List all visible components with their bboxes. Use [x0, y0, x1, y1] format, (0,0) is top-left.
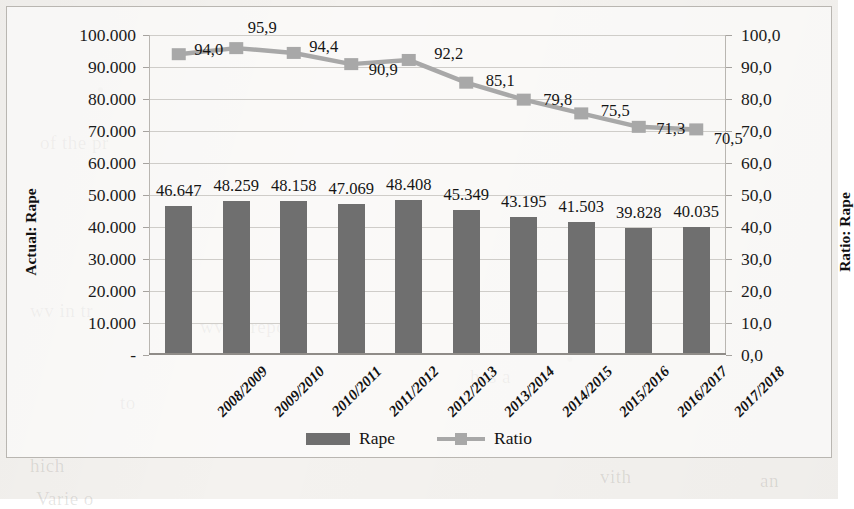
tick-mark: [143, 131, 149, 132]
left-axis-tick-label: 100.000: [79, 25, 136, 46]
ratio-data-label: 75,5: [601, 101, 630, 121]
bar: [165, 206, 192, 355]
left-axis-tick-label: 90.000: [88, 57, 136, 78]
left-axis-tick-label: 80.000: [88, 89, 136, 110]
bar-data-label: 39.828: [616, 203, 661, 223]
tick-mark: [143, 355, 149, 356]
tick-mark: [143, 195, 149, 196]
ratio-data-label: 92,2: [434, 44, 463, 64]
chart-legend: Rape Ratio: [7, 428, 831, 449]
tick-mark: [726, 163, 732, 164]
tick-mark: [726, 67, 732, 68]
right-axis-tick-label: 100,0: [741, 25, 780, 46]
gridline: [150, 35, 725, 36]
line-marker: [402, 54, 416, 66]
ratio-data-label: 79,8: [543, 90, 572, 110]
left-axis-title: Actual: Rape: [22, 188, 40, 275]
category-label: 2017/2018: [731, 363, 788, 420]
bar: [510, 217, 537, 355]
right-axis-tick-label: 50,0: [741, 185, 772, 206]
bar-data-label: 40.035: [674, 202, 719, 222]
ratio-data-label: 94,4: [309, 37, 338, 57]
ratio-data-label: 94,0: [194, 40, 223, 60]
category-label: 2009/2010: [271, 363, 328, 420]
gridline: [150, 163, 725, 164]
category-axis-line: [149, 353, 726, 355]
line-marker: [689, 123, 703, 135]
bar: [568, 222, 595, 355]
right-axis-tick-label: 0,0: [741, 345, 763, 366]
right-axis-title: Ratio: Rape: [836, 192, 854, 272]
line-marker: [574, 107, 588, 119]
tick-mark: [726, 259, 732, 260]
bar: [453, 210, 480, 355]
bar-data-label: 47.069: [329, 179, 374, 199]
tick-mark: [143, 99, 149, 100]
category-label: 2016/2017: [674, 363, 731, 420]
bar: [338, 204, 365, 355]
legend-item-ratio: Ratio: [437, 428, 532, 449]
line-marker: [287, 47, 301, 59]
right-axis-tick-label: 80,0: [741, 89, 772, 110]
right-axis-tick-label: 40,0: [741, 217, 772, 238]
tick-mark: [726, 355, 732, 356]
tick-mark: [143, 67, 149, 68]
left-axis-tick-label: 50.000: [88, 185, 136, 206]
chart-container: Actual: Rape Ratio: Rape -10.00020.00030…: [6, 6, 832, 458]
category-label: 2011/2012: [386, 363, 443, 420]
tick-mark: [143, 227, 149, 228]
tick-mark: [143, 323, 149, 324]
legend-line-swatch-icon: [437, 433, 485, 445]
category-label: 2014/2015: [559, 363, 616, 420]
right-axis-tick-label: 10,0: [741, 313, 772, 334]
category-label: 2008/2009: [214, 363, 271, 420]
tick-mark: [143, 163, 149, 164]
bar: [625, 228, 652, 355]
bar-data-label: 48.158: [271, 176, 316, 196]
legend-bar-swatch-icon: [306, 433, 350, 445]
tick-mark: [726, 291, 732, 292]
gridline: [150, 131, 725, 132]
bar: [683, 227, 710, 355]
tick-mark: [726, 227, 732, 228]
ghost-text: vith: [600, 466, 632, 488]
right-axis-tick-label: 30,0: [741, 249, 772, 270]
right-axis-tick-label: 60,0: [741, 153, 772, 174]
bar: [223, 201, 250, 355]
category-label: 2015/2016: [616, 363, 673, 420]
tick-mark: [143, 291, 149, 292]
ratio-data-label: 90,9: [369, 60, 398, 80]
right-axis-tick-label: 70,0: [741, 121, 772, 142]
legend-item-rape: Rape: [306, 428, 395, 449]
gridline: [150, 99, 725, 100]
tick-mark: [726, 195, 732, 196]
left-axis-tick-label: 10.000: [88, 313, 136, 334]
ratio-data-label: 95,9: [248, 18, 277, 38]
tick-mark: [726, 99, 732, 100]
bar-data-label: 48.259: [214, 176, 259, 196]
ratio-data-label: 85,1: [486, 71, 515, 91]
category-label: 2010/2011: [328, 363, 385, 420]
left-axis-tick-label: 30.000: [88, 249, 136, 270]
legend-label-ratio: Ratio: [494, 428, 532, 449]
ghost-text: hich: [30, 455, 65, 477]
tick-mark: [143, 35, 149, 36]
tick-mark: [726, 323, 732, 324]
ratio-data-label: 71,3: [656, 119, 685, 139]
bar: [395, 200, 422, 355]
left-axis-tick-label: 20.000: [88, 281, 136, 302]
ghost-text: Varie o: [36, 488, 94, 509]
bar-data-label: 48.408: [386, 175, 431, 195]
right-axis-tick-label: 90,0: [741, 57, 772, 78]
tick-mark: [726, 35, 732, 36]
tick-mark: [143, 259, 149, 260]
bar-data-label: 43.195: [501, 192, 546, 212]
ratio-data-label: 70,5: [714, 129, 743, 149]
ghost-text: an: [760, 470, 779, 492]
line-marker: [344, 58, 358, 70]
category-label: 2013/2014: [501, 363, 558, 420]
left-axis-tick-label: 70.000: [88, 121, 136, 142]
line-marker: [229, 42, 243, 54]
legend-label-rape: Rape: [359, 428, 395, 449]
